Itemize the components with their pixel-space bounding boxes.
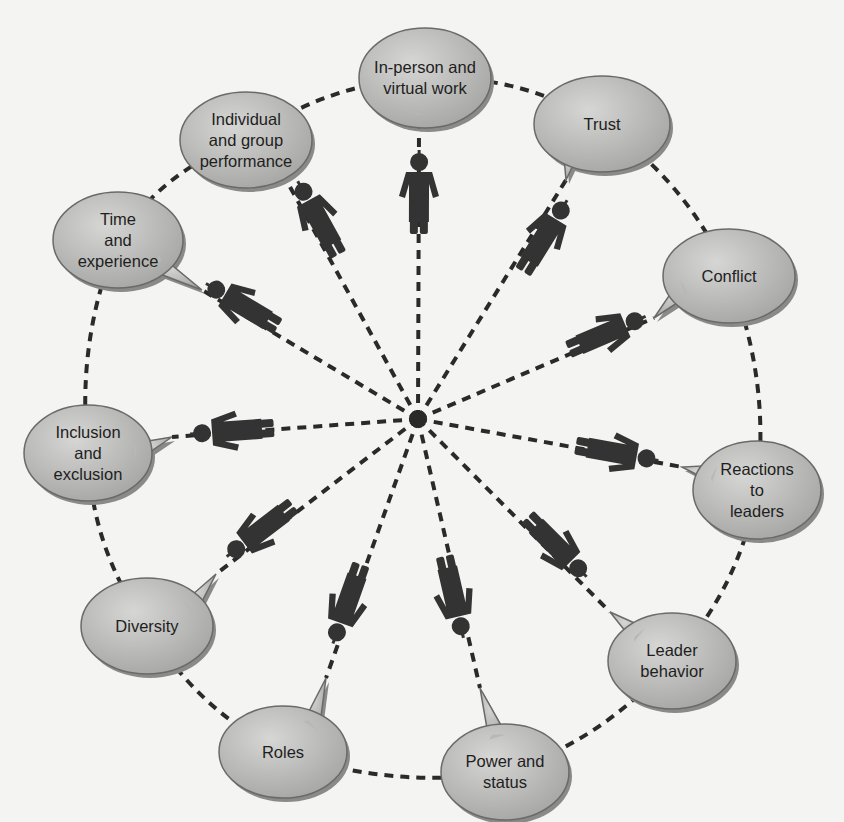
spoke-line: [418, 128, 419, 419]
person-figure-icon: [506, 190, 584, 282]
hub-spoke-diagram: [0, 0, 844, 822]
bubble-label-reactions-to-leaders: Reactions to leaders: [703, 459, 812, 522]
person-figure-icon: [280, 172, 356, 265]
bubble-label-power-and-status: Power and status: [451, 751, 560, 793]
spoke-line: [418, 419, 480, 688]
person-figure-icon: [572, 426, 662, 480]
person-figure-icon: [399, 150, 439, 234]
person-figure-icon: [425, 552, 483, 643]
bubble-label-diversity: Diversity: [91, 616, 203, 637]
bubble-label-in-person-virtual-work: In-person and virtual work: [369, 57, 481, 99]
person-figure-icon: [513, 503, 601, 591]
bubble-label-individual-and-group-performance: Individual and group performance: [190, 109, 302, 172]
bubble-label-leader-behavior: Leader behavior: [618, 640, 727, 682]
person-figure-icon: [215, 490, 306, 573]
person-figure-icon: [561, 298, 654, 368]
person-figures: [189, 150, 662, 650]
bubble-label-conflict: Conflict: [673, 266, 785, 287]
person-figure-icon: [196, 266, 289, 343]
bubble-label-inclusion-and-exclusion: Inclusion and exclusion: [34, 422, 143, 485]
bubble-label-time-and-experience: Time and experience: [63, 209, 174, 272]
spoke-line: [216, 419, 418, 574]
diagram-canvas: In-person and virtual workTrustConflictR…: [0, 0, 844, 822]
speech-bubble-roles: [219, 678, 350, 802]
bubble-label-trust: Trust: [544, 114, 660, 135]
person-figure-icon: [189, 408, 276, 454]
bubble-label-roles: Roles: [229, 742, 338, 763]
person-figure-icon: [314, 558, 380, 651]
center-hub-dot: [409, 410, 427, 428]
